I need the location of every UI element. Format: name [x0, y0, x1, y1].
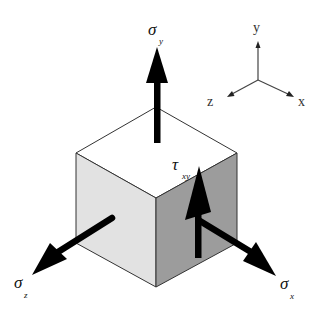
sigma-z-label: σ z: [14, 273, 28, 300]
sigma-z-subscript: z: [23, 290, 28, 300]
axes-triad: y z x: [207, 20, 305, 109]
y-axis-arrowhead-icon: [256, 41, 261, 48]
sigma-x-label: σ x: [280, 274, 294, 301]
sigma-y-shaft: [154, 80, 161, 143]
sigma-x-symbol: σ: [280, 274, 289, 293]
tau-xy-shaft: [195, 210, 202, 258]
z-axis-arrowhead-icon: [227, 91, 235, 97]
sigma-y-subscript: y: [158, 36, 163, 46]
stress-element-diagram: y z x σ y σ z σ x τ xy: [0, 0, 323, 312]
x-axis-line: [258, 80, 288, 94]
sigma-z-symbol: σ: [14, 273, 23, 292]
tau-xy-subscript: xy: [181, 171, 190, 181]
sigma-y-label: σ y: [148, 20, 163, 46]
sigma-y-arrowhead-icon: [146, 47, 168, 83]
sigma-x-subscript: x: [289, 291, 294, 301]
x-axis-label: x: [298, 94, 305, 109]
z-axis-label: z: [207, 94, 213, 109]
x-axis-arrowhead-icon: [286, 91, 294, 97]
tau-xy-symbol: τ: [172, 155, 179, 174]
y-axis-label: y: [253, 20, 260, 35]
z-axis-line: [232, 80, 258, 94]
sigma-y-symbol: σ: [148, 20, 157, 39]
